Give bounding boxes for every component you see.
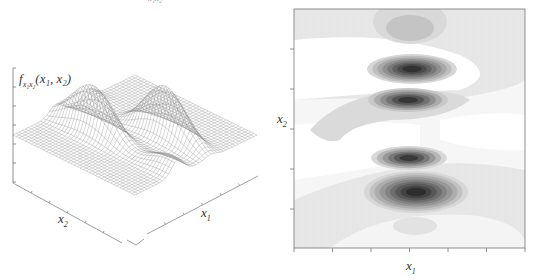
contour-y-axis-label: x2 (277, 111, 287, 129)
x1-axis-label: x1 (201, 205, 211, 223)
x2-axis-label: x2 (58, 211, 68, 229)
surface-plot: fx₁x₂(x₁, x₂) x2 x1 (0, 0, 270, 280)
contour-plot: x2 x1 (270, 0, 537, 280)
surface-wireframe (0, 0, 270, 280)
z-axis-label: fx₁x₂(x₁, x₂) (19, 71, 71, 89)
contour-canvas (270, 0, 537, 280)
contour-x-axis-label: x1 (406, 258, 416, 276)
